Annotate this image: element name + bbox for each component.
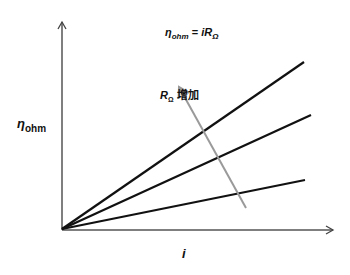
equation-label: ηohm = iRΩ — [165, 26, 218, 41]
diagram-canvas — [0, 0, 350, 275]
equals-sign: = — [189, 26, 202, 38]
line-mid-resistance — [62, 115, 311, 229]
eta-symbol: η — [165, 26, 172, 38]
resistance-increase-arrow — [179, 87, 246, 208]
resistance-increase-label: RΩ 增加 — [160, 86, 199, 103]
eta-subscript: ohm — [172, 32, 189, 41]
omega-subscript: Ω — [212, 32, 218, 41]
y-axis-label: ηohm — [17, 116, 46, 134]
y-symbol: η — [17, 116, 25, 131]
increase-text: 增加 — [174, 89, 199, 101]
ir-term: iR — [201, 26, 212, 38]
r-symbol: R — [160, 89, 168, 101]
x-axis-label: i — [182, 246, 186, 261]
y-subscript: ohm — [25, 123, 46, 134]
